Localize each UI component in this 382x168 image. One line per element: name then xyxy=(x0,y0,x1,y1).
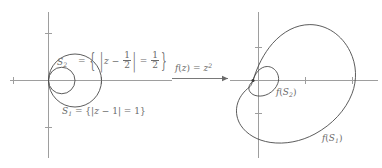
label-s2-name: S2 xyxy=(57,58,67,68)
label-s2-fraction-half-right: 1 2 xyxy=(151,51,159,70)
label-f-s1: f(S1) xyxy=(322,134,342,144)
label-s2-frac2-denominator: 2 xyxy=(151,60,159,70)
label-s1-brace-close: } xyxy=(140,106,146,116)
label-s2-equals-2: = xyxy=(140,56,148,66)
label-s2-brace-open: { xyxy=(89,52,95,72)
label-s1-variable: z xyxy=(94,106,99,116)
label-s1-equation: S1 = {|z − 1| = 1} xyxy=(62,107,146,117)
label-s2-equals: = xyxy=(78,56,86,66)
label-map-paren-close: ) xyxy=(187,63,191,73)
label-s1-bar-close: | xyxy=(118,106,121,116)
label-s1-equals-2: = xyxy=(124,106,132,116)
label-s2-bar-open: | xyxy=(100,52,103,72)
label-s2-variable: z xyxy=(104,56,109,66)
label-s2-fraction-half-left: 1 2 xyxy=(123,51,131,70)
label-s1-equals: = xyxy=(75,106,83,116)
cardioid-f-s1 xyxy=(236,25,355,143)
label-s2-frac2-numerator: 1 xyxy=(151,51,159,60)
label-s2-bar-close: | xyxy=(133,52,136,72)
map-arrow-group xyxy=(172,76,228,81)
left-panel-axes xyxy=(10,12,172,158)
label-s1-minus: − xyxy=(102,106,110,116)
label-s2-brace-close: } xyxy=(161,52,167,72)
label-s2-equation: = { |z − 1 2 | = 1 2 } xyxy=(78,51,168,70)
label-map-exponent: 2 xyxy=(208,62,212,69)
label-f-s2: f(S2) xyxy=(276,88,296,98)
label-fs1-paren-close: ) xyxy=(339,133,343,143)
complex-map-figure: S2 = { |z − 1 2 | = 1 2 } S1 = {|z − 1| … xyxy=(0,0,382,168)
label-s1-subscript: 1 xyxy=(68,110,72,117)
label-s2-minus: − xyxy=(112,56,120,66)
label-s2-frac1-denominator: 2 xyxy=(123,60,131,70)
label-map-equals: = xyxy=(193,63,201,73)
cusp-point xyxy=(251,79,254,82)
right-panel-curves xyxy=(236,25,355,143)
arrow-head xyxy=(222,76,228,81)
label-fs2-paren-close: ) xyxy=(293,87,297,97)
label-s2-frac1-numerator: 1 xyxy=(123,51,131,60)
label-s2-subscript: 2 xyxy=(63,61,67,68)
label-map-function: f(z) = z2 xyxy=(175,63,212,73)
